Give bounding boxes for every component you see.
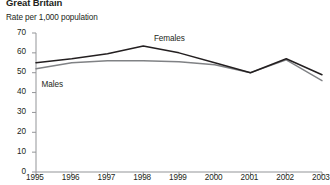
series-label-females: Females [154,34,185,43]
series-label-males: Males [42,80,63,89]
x-tick-label: 2003 [312,173,330,182]
x-tick-label: 2000 [205,173,223,182]
series-line-males [36,60,322,81]
x-tick-label: 2001 [241,173,259,182]
x-tick-label: 1997 [98,173,116,182]
series-line-females [36,46,322,75]
y-tick-label: 10 [4,147,26,156]
x-tick-label: 1999 [169,173,187,182]
x-tick-label: 1995 [26,173,44,182]
y-tick-label: 0 [4,167,26,176]
y-tick-label: 20 [4,127,26,136]
y-tick-label: 40 [4,87,26,96]
y-tick-label: 30 [4,107,26,116]
x-tick-label: 1998 [133,173,151,182]
y-tick-label: 60 [4,47,26,56]
y-tick-label: 50 [4,67,26,76]
y-tick-label: 70 [4,28,26,37]
y-tick-marks [32,33,36,172]
x-tick-label: 2002 [276,173,294,182]
axis-lines [36,33,322,172]
x-tick-label: 1996 [62,173,80,182]
